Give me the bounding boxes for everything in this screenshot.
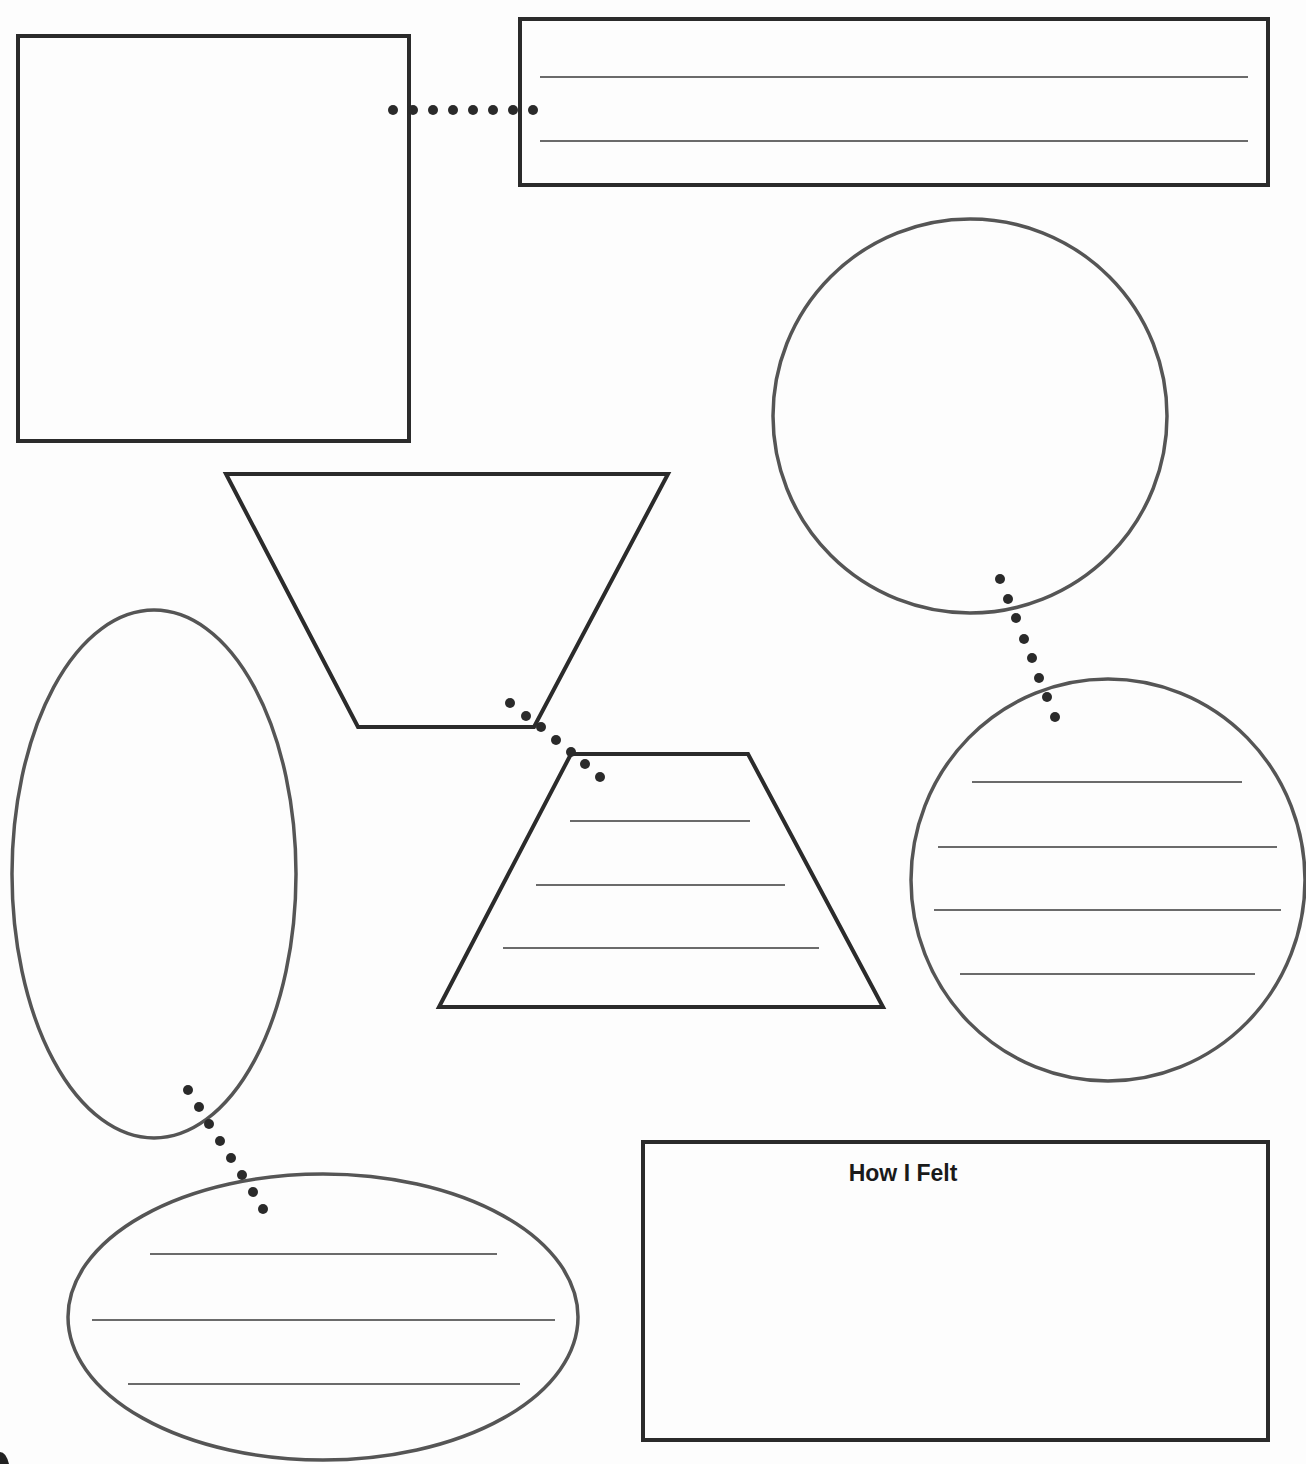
connector-dot [580,759,590,769]
tall-ellipse [12,610,296,1138]
connector-dot [1003,594,1013,604]
lower-circle [911,679,1305,1081]
how-i-felt-heading: How I Felt [643,1160,1163,1187]
lower-trapezoid [439,754,883,1007]
connector-dot [505,698,515,708]
connector-dot [194,1102,204,1112]
connector-dot [551,735,561,745]
connector-dot [995,574,1005,584]
connector-dot [226,1153,236,1163]
connector-dot [248,1187,258,1197]
connector-dot [428,105,438,115]
connector-dot [1034,673,1044,683]
connector-dot [388,105,398,115]
upper-circle [773,219,1167,613]
worksheet-drawing [0,0,1306,1464]
connector-dot [408,105,418,115]
connector-dot [468,105,478,115]
connector-dot [508,105,518,115]
upper-inverted-trapezoid [226,474,668,727]
connector-dot [1042,692,1052,702]
connector-dot [1027,653,1037,663]
top-left-box [18,36,409,441]
wide-ellipse [68,1174,578,1460]
connector-dot [204,1119,214,1129]
connector-dot [521,711,531,721]
connector-dot [215,1136,225,1146]
connector-dot [237,1170,247,1180]
connector-dot [595,772,605,782]
connector-dot [448,105,458,115]
connector-dot [536,722,546,732]
connector-dot [258,1204,268,1214]
connector-dot [183,1085,193,1095]
connector-dot [566,747,576,757]
corner-mark [0,1452,9,1464]
connector-dot [1011,613,1021,623]
connector-dot [528,105,538,115]
top-right-banner-box [520,19,1268,185]
connector-dot [488,105,498,115]
connector-dot [1050,712,1060,722]
graphic-organizer-worksheet: How I Felt [0,0,1306,1464]
connector-dot [1019,634,1029,644]
